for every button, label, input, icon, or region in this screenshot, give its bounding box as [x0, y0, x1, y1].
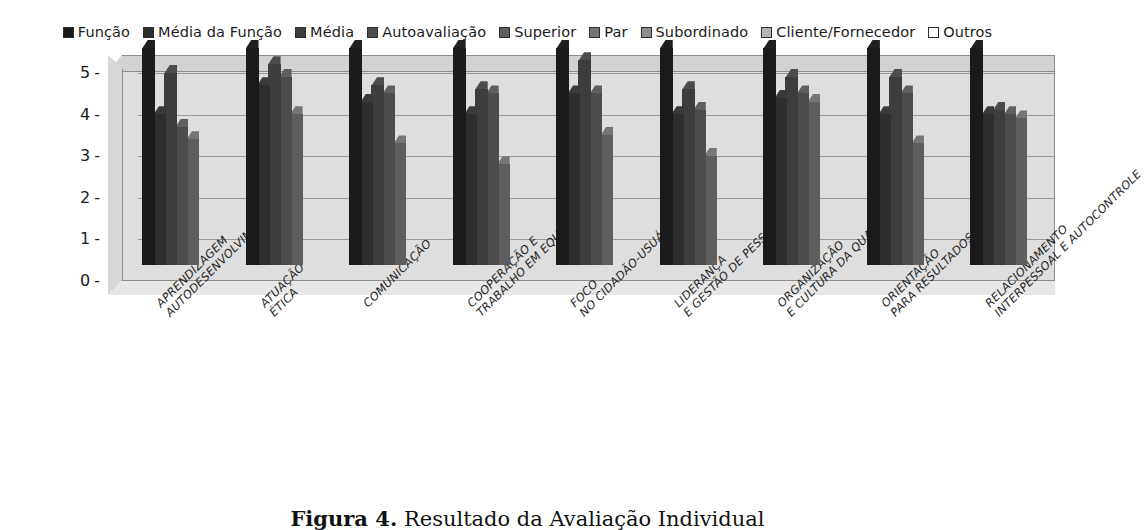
y-axis-tick-2: 2- — [80, 187, 100, 206]
legend-media-da-funcao[interactable]: Média da Função — [143, 25, 282, 40]
bar-face — [867, 48, 880, 265]
chart-plot-area — [108, 55, 1055, 295]
bar-face — [763, 48, 776, 265]
y-axis-tick-3: 3- — [80, 146, 100, 165]
legend-par[interactable]: Par — [589, 25, 627, 40]
bar — [763, 40, 776, 265]
legend-cliente-fornecedor[interactable]: Cliente/Fornecedor — [761, 25, 915, 40]
bar — [246, 40, 259, 265]
legend-item-label: Autoavaliação — [382, 25, 486, 40]
bar-group — [242, 73, 346, 265]
legend-outros[interactable]: Outros — [928, 25, 992, 40]
legend-swatch-icon — [761, 27, 772, 38]
legend-swatch-icon — [641, 27, 652, 38]
legend-swatch-icon — [499, 27, 510, 38]
y-axis: 5-4-3-2-1-0- — [0, 55, 108, 295]
bar-face — [453, 48, 466, 265]
bar — [142, 40, 155, 265]
figure-caption-text: Resultado da Avaliação Individual — [404, 507, 765, 530]
legend-item-label: Par — [604, 25, 627, 40]
bar — [349, 40, 362, 265]
legend-item-label: Função — [78, 25, 130, 40]
y-axis-tick-4: 4- — [80, 104, 100, 123]
y-axis-tick-1: 1- — [80, 229, 100, 248]
legend-swatch-icon — [589, 27, 600, 38]
bar — [867, 40, 880, 265]
bar-face — [556, 48, 569, 265]
legend-subordinado[interactable]: Subordinado — [641, 25, 749, 40]
bar-face — [660, 48, 673, 265]
legend-autoavaliacao[interactable]: Autoavaliação — [367, 25, 486, 40]
legend-item-label: Subordinado — [656, 25, 749, 40]
figure-caption: Figura 4. Resultado da Avaliação Individ… — [0, 506, 1055, 530]
bar-face — [246, 48, 259, 265]
x-axis-labels: APRENDIZAGEMAUTODESENVOLVIMENTOATUAÇÃOÉT… — [0, 295, 1055, 485]
chart-back-wall — [122, 55, 1055, 281]
y-axis-tick-0: 0- — [80, 271, 100, 290]
bar-face — [970, 48, 983, 265]
legend-item-label: Cliente/Fornecedor — [776, 25, 915, 40]
bar — [453, 40, 466, 265]
bar — [660, 40, 673, 265]
legend-swatch-icon — [63, 27, 74, 38]
chart-legend: FunçãoMédia da FunçãoMédiaAutoavaliaçãoS… — [0, 20, 1055, 44]
bar-face — [349, 48, 362, 265]
legend-swatch-icon — [295, 27, 306, 38]
legend-funcao[interactable]: Função — [63, 25, 130, 40]
legend-swatch-icon — [367, 27, 378, 38]
bars-container — [138, 73, 1054, 265]
figure-caption-label: Figura 4. — [290, 506, 397, 530]
bar — [556, 40, 569, 265]
legend-media[interactable]: Média — [295, 25, 354, 40]
legend-swatch-icon — [143, 27, 154, 38]
legend-swatch-icon — [928, 27, 939, 38]
legend-item-label: Média da Função — [158, 25, 282, 40]
legend-item-label: Superior — [514, 25, 576, 40]
legend-item-label: Média — [310, 25, 354, 40]
chart-left-wall — [108, 55, 123, 295]
bar — [970, 40, 983, 265]
bar-group — [345, 73, 449, 265]
bar-face — [142, 48, 155, 265]
y-axis-tick-5: 5- — [80, 63, 100, 82]
legend-superior[interactable]: Superior — [499, 25, 576, 40]
legend-item-label: Outros — [943, 25, 992, 40]
